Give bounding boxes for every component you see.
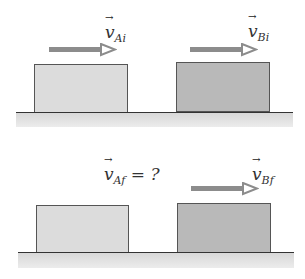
velocity-label-a-initial: →vAi bbox=[105, 22, 126, 45]
block-a-final bbox=[36, 205, 129, 253]
velocity-arrow-b-initial bbox=[190, 43, 258, 57]
ground-line-initial bbox=[16, 112, 293, 113]
ground-surface-final bbox=[18, 253, 294, 268]
ground-line-final bbox=[18, 252, 294, 253]
block-b-final bbox=[177, 203, 271, 253]
velocity-label-a-final: →vAf = ? bbox=[104, 164, 160, 187]
block-a-initial bbox=[34, 64, 128, 113]
velocity-arrow-b-final bbox=[191, 182, 259, 196]
initial-state-panel: →vAi →vBi bbox=[0, 0, 305, 140]
velocity-label-b-final: →vBf bbox=[252, 164, 274, 187]
ground-surface-initial bbox=[16, 113, 293, 127]
block-b-initial bbox=[176, 62, 270, 112]
velocity-label-b-initial: →vBi bbox=[248, 21, 269, 44]
final-state-panel: →vAf = ? →vBf bbox=[0, 140, 305, 279]
